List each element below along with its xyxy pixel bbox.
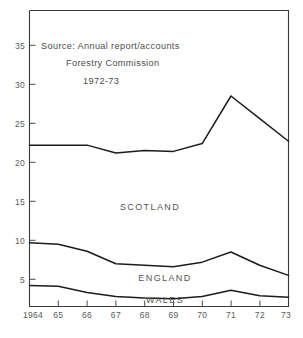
x-tick-label: 72 (255, 310, 265, 320)
y-tick-label: 25 (15, 119, 25, 129)
y-tick-label: 30 (15, 80, 25, 90)
line-chart-canvas: 35 30 25 20 15 10 5 1964 65 66 67 68 69 (0, 0, 303, 338)
y-tick-label: 35 (15, 41, 25, 51)
y-tick-label: 5 (20, 275, 25, 285)
x-tick-label: 73 (281, 310, 291, 320)
plot-frame (30, 11, 289, 307)
source-line-1: Source: Annual report/accounts (41, 41, 180, 51)
y-tick-label: 10 (15, 236, 25, 246)
x-tick-label: 1964 (23, 310, 43, 320)
series-line-scotland (30, 96, 289, 153)
x-tick-label: 68 (140, 310, 150, 320)
source-line-3: 1972-73 (83, 76, 119, 86)
x-tick-label: 70 (197, 310, 207, 320)
source-line-2: Forestry Commission (66, 58, 159, 68)
x-tick-label: 69 (168, 310, 178, 320)
y-tick-label: 15 (15, 197, 25, 207)
y-axis-tick-labels: 35 30 25 20 15 10 5 (15, 41, 25, 285)
y-axis-ticks (30, 45, 36, 279)
series-label-scotland: SCOTLAND (120, 202, 180, 212)
x-tick-label: 71 (226, 310, 236, 320)
chart-figure: 35 30 25 20 15 10 5 1964 65 66 67 68 69 (0, 0, 303, 338)
y-tick-label: 20 (15, 158, 25, 168)
x-tick-label: 66 (82, 310, 92, 320)
series-label-wales: WALES (146, 295, 184, 305)
series-line-england (30, 243, 289, 276)
series-label-england: ENGLAND (138, 273, 191, 283)
x-tick-label: 65 (53, 310, 63, 320)
source-annotation: Source: Annual report/accounts Forestry … (41, 41, 180, 86)
x-tick-label: 67 (111, 310, 121, 320)
x-axis-tick-labels: 1964 65 66 67 68 69 70 71 72 73 (23, 310, 291, 320)
